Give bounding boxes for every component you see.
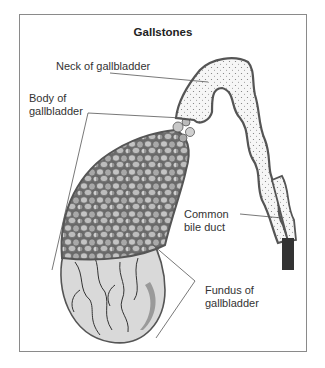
gallstones-body	[62, 130, 189, 259]
label-duct-line2: bile duct	[184, 221, 229, 234]
label-duct-line1: Common	[184, 208, 229, 221]
gallbladder-illustration	[0, 0, 325, 368]
label-common-bile-duct: Common bile duct	[184, 208, 229, 234]
label-fundus-of-gallbladder: Fundus of gallbladder	[205, 284, 259, 310]
label-body-line2: gallbladder	[29, 105, 83, 118]
label-fundus-line1: Fundus of	[205, 284, 259, 297]
label-body-line1: Body of	[29, 92, 83, 105]
label-neck-of-gallbladder: Neck of gallbladder	[56, 60, 150, 73]
common-bile-duct-end	[282, 238, 294, 270]
label-fundus-line2: gallbladder	[205, 297, 259, 310]
label-body-of-gallbladder: Body of gallbladder	[29, 92, 83, 118]
